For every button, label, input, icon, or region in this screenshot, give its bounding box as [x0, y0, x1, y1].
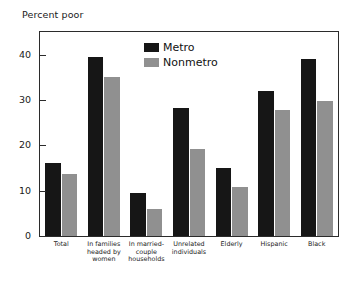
- chart-legend: MetroNonmetro: [144, 41, 218, 68]
- y-tick-mark: [39, 100, 46, 101]
- legend-swatch-icon: [144, 58, 159, 67]
- y-tick-mark: [39, 145, 46, 146]
- y-tick-label: 40: [19, 48, 31, 59]
- bar-nonmetro: [317, 101, 333, 236]
- bar-metro: [301, 59, 317, 236]
- y-tick-label: 0: [25, 230, 31, 241]
- legend-item-metro: Metro: [144, 41, 218, 53]
- y-tick-mark: [39, 191, 46, 192]
- y-tick-mark: [39, 55, 46, 56]
- x-tick-label: Black: [290, 241, 344, 249]
- bar-chart: Percent poor 010203040 MetroNonmetro Tot…: [0, 0, 361, 283]
- y-tick-label: 30: [19, 94, 31, 105]
- x-axis: TotalIn familiesheaded bywomenIn married…: [40, 241, 338, 283]
- chart-title: Percent poor: [22, 9, 84, 20]
- legend-item-nonmetro: Nonmetro: [144, 56, 218, 68]
- y-axis: 010203040: [0, 31, 36, 237]
- legend-label: Nonmetro: [163, 57, 218, 68]
- legend-label: Metro: [163, 42, 195, 53]
- legend-swatch-icon: [144, 43, 159, 52]
- y-tick-label: 10: [19, 184, 31, 195]
- y-tick-label: 20: [19, 139, 31, 150]
